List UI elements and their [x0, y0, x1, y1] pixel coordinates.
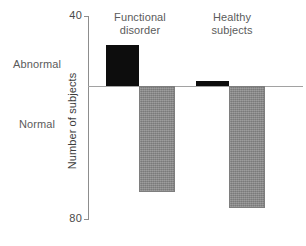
group-title-functional-disorder: Functional disorder: [94, 11, 186, 37]
y-axis-tick-top: [84, 16, 89, 17]
bar-healthy-subjects-normal: [229, 86, 265, 208]
group-title-line-2: subjects: [186, 24, 278, 37]
group-title-line-1: Functional: [94, 11, 186, 24]
bar-functional-disorder-abnormal: [106, 45, 139, 86]
group-title-line-1: Healthy: [186, 11, 278, 24]
bar-chart: 40 80 Number of subjects Abnormal Normal…: [0, 0, 306, 246]
row-label-abnormal: Abnormal: [4, 58, 70, 70]
zero-baseline: [88, 86, 303, 87]
y-axis-tick-label-bottom: 80: [56, 212, 82, 224]
group-title-healthy-subjects: Healthy subjects: [186, 11, 278, 37]
bar-healthy-subjects-abnormal: [196, 81, 229, 86]
y-axis-tick-label-top: 40: [56, 9, 82, 21]
y-axis-tick-bottom: [84, 219, 89, 220]
bar-functional-disorder-normal: [139, 86, 175, 192]
group-title-line-2: disorder: [94, 24, 186, 37]
row-label-normal: Normal: [4, 118, 70, 130]
y-axis-line: [88, 16, 89, 219]
